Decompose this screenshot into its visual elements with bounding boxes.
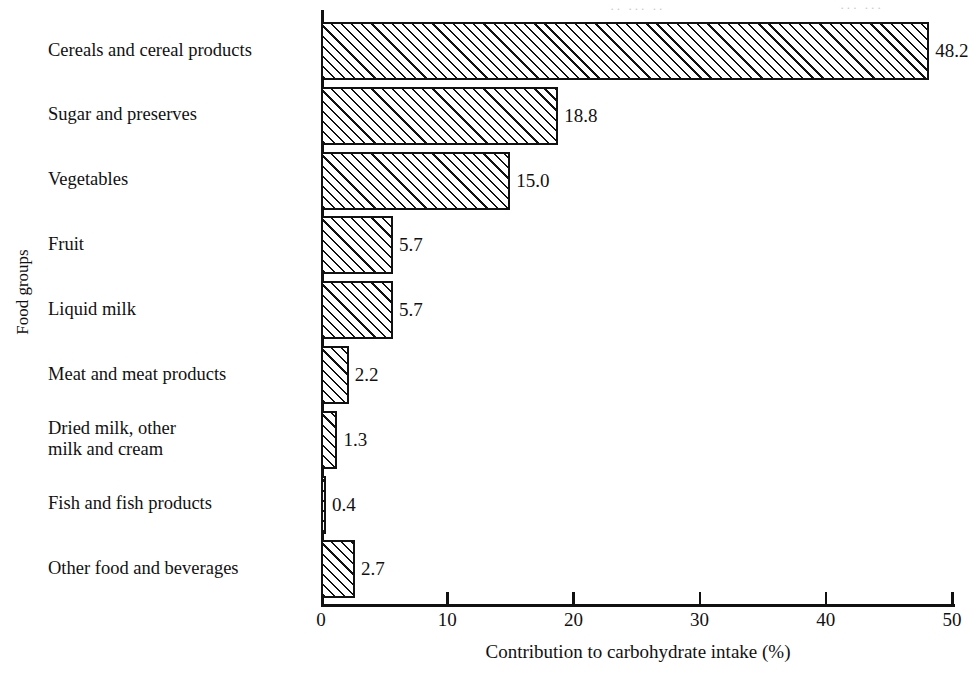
- x-axis-tick: [446, 592, 449, 605]
- x-axis-tick-label: 50: [943, 609, 962, 631]
- category-label: Liquid milk: [48, 299, 136, 320]
- bar[interactable]: [321, 216, 393, 274]
- bar-row: 18.8: [321, 87, 961, 145]
- category-label: Sugar and preserves: [48, 104, 197, 125]
- bar[interactable]: [321, 152, 510, 210]
- bar-row: 1.3: [321, 411, 961, 469]
- x-axis-tick-label: 0: [316, 609, 326, 631]
- bar[interactable]: [321, 281, 393, 339]
- x-axis-tick: [951, 592, 954, 605]
- x-axis-tick: [699, 592, 702, 605]
- category-label-list: Cereals and cereal productsSugar and pre…: [0, 0, 318, 610]
- category-label: Dried milk, other milk and cream: [48, 418, 176, 460]
- bar-row: 5.7: [321, 281, 961, 339]
- x-axis-tick: [825, 592, 828, 605]
- bar[interactable]: [321, 476, 326, 534]
- x-axis-tick-label: 20: [564, 609, 583, 631]
- category-label: Vegetables: [48, 169, 128, 190]
- bar-value-label: 5.7: [399, 234, 423, 256]
- bar-value-label: 2.2: [355, 364, 379, 386]
- x-axis-tick: [572, 592, 575, 605]
- bar-row: 15.0: [321, 152, 961, 210]
- bar-row: 2.7: [321, 540, 961, 598]
- bar-chart: ·· ··· ·· ··· ··· Food groups Cereals an…: [0, 0, 977, 677]
- x-axis-tick-label: 40: [816, 609, 835, 631]
- category-label: Meat and meat products: [48, 364, 226, 385]
- x-axis-tick-label: 10: [438, 609, 457, 631]
- bar-row: 2.2: [321, 346, 961, 404]
- x-axis-tick-label: 30: [690, 609, 709, 631]
- bar-value-label: 5.7: [399, 299, 423, 321]
- bar[interactable]: [321, 346, 349, 404]
- bar-row: 48.2: [321, 22, 961, 80]
- category-label: Other food and beverages: [48, 558, 239, 579]
- category-label: Cereals and cereal products: [48, 40, 252, 61]
- bar-value-label: 2.7: [361, 558, 385, 580]
- bar-row: 5.7: [321, 216, 961, 274]
- plot-area: 48.218.815.05.75.72.21.30.42.7 010203040…: [321, 0, 961, 610]
- bar-value-label: 15.0: [516, 170, 549, 192]
- bar[interactable]: [321, 87, 558, 145]
- bar-value-label: 0.4: [332, 494, 356, 516]
- x-axis-line: [321, 604, 955, 607]
- bar[interactable]: [321, 22, 929, 80]
- x-axis-title: Contribution to carbohydrate intake (%): [321, 641, 955, 663]
- bar-value-label: 48.2: [935, 40, 968, 62]
- bar[interactable]: [321, 411, 337, 469]
- bar-value-label: 1.3: [343, 429, 367, 451]
- category-label: Fish and fish products: [48, 493, 212, 514]
- bar[interactable]: [321, 540, 355, 598]
- bar-row: 0.4: [321, 476, 961, 534]
- bar-value-label: 18.8: [564, 105, 597, 127]
- category-label: Fruit: [48, 234, 84, 255]
